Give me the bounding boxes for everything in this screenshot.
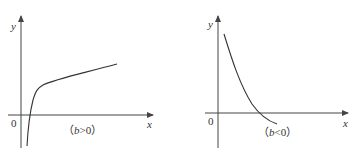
y-axis-label: y [10,20,16,32]
graph-left: y x 0 （b>0） [8,16,153,148]
caption-right: （b<0） [258,126,297,138]
caption-left: （b>0） [63,124,102,136]
origin-label: 0 [11,117,17,129]
x-axis-label: x [146,118,152,130]
origin-label: 0 [208,115,214,127]
y-axis-label: y [207,18,213,30]
x-axis-label: x [342,117,348,129]
graph-right: y x 0 （b<0） [205,16,348,148]
figure-canvas: y x 0 （b>0） y x 0 （b<0） [0,0,356,160]
curve-b-negative [224,34,277,124]
